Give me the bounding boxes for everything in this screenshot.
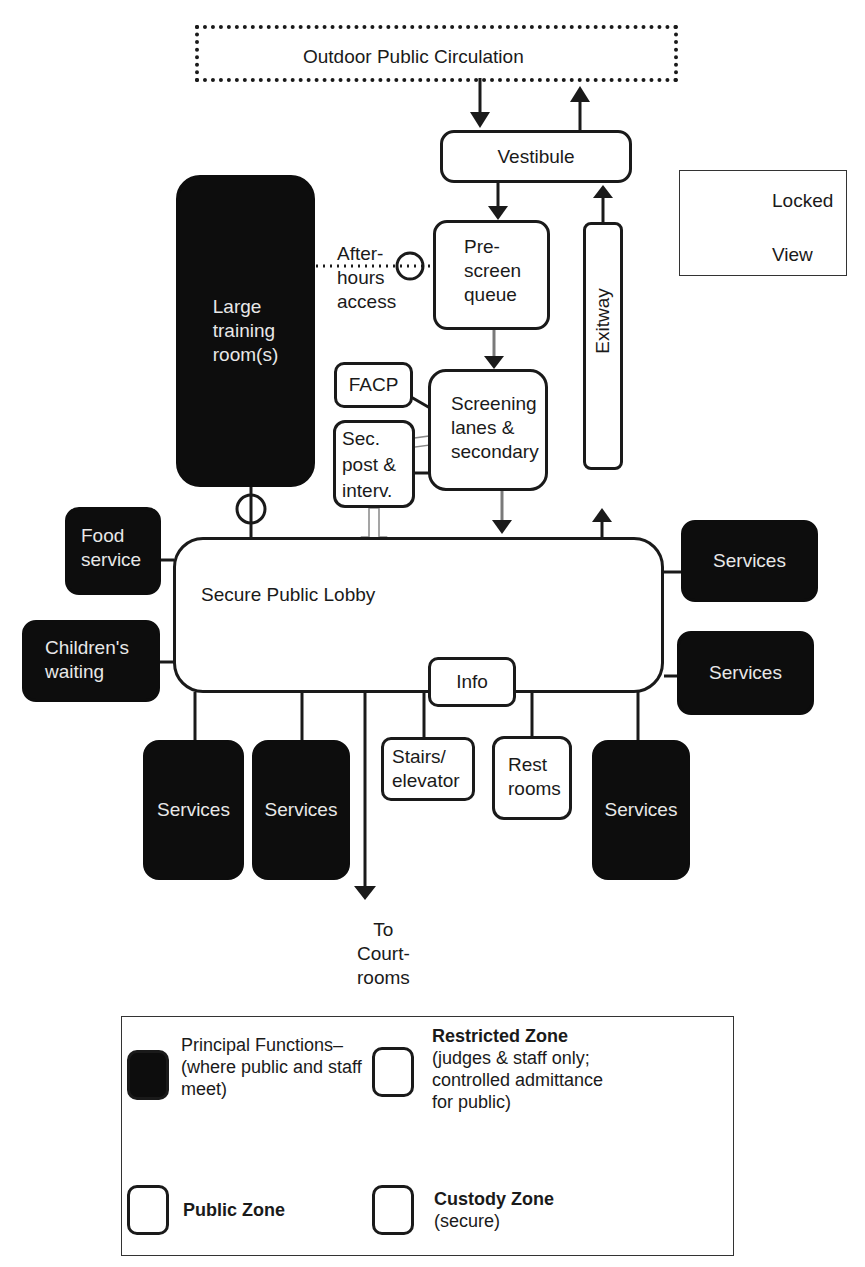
- services-right-top-label: Services: [713, 549, 786, 573]
- principal-functions-text: Principal Functions– (where public and s…: [181, 1034, 362, 1100]
- services-bottom-3-box: Services: [592, 740, 690, 880]
- services-bottom-2-label: Services: [265, 798, 338, 822]
- restricted-zone-swatch: [372, 1047, 414, 1097]
- services-right-top-box: Services: [681, 520, 818, 602]
- services-bottom-3-label: Services: [605, 798, 678, 822]
- prescreen-queue-box: Pre- screen queue: [433, 220, 550, 330]
- security-post-box: Sec. post & interv.: [333, 420, 415, 508]
- stairs-elevator-box: Stairs/ elevator: [381, 737, 475, 801]
- screening-label: Screening lanes & secondary: [451, 392, 539, 464]
- stairs-label: Stairs/ elevator: [392, 745, 460, 793]
- public-zone-swatch: [127, 1185, 169, 1235]
- facp-box: FACP: [334, 362, 413, 408]
- food-service-box: Food service: [65, 507, 161, 595]
- restricted-desc: (judges & staff only; controlled admitta…: [432, 1047, 603, 1113]
- after-hours-access-label: After- hours access: [337, 242, 396, 314]
- services-right-mid-box: Services: [677, 631, 814, 715]
- custody-zone-swatch: [372, 1185, 414, 1235]
- facp-label: FACP: [349, 373, 399, 397]
- principal-title: Principal Functions–: [181, 1034, 362, 1056]
- services-right-mid-label: Services: [709, 661, 782, 685]
- legend-locked-label: Locked: [772, 189, 833, 213]
- info-box: Info: [428, 657, 516, 707]
- restricted-zone-text: Restricted Zone (judges & staff only; co…: [432, 1025, 603, 1113]
- restrooms-label: Rest rooms: [508, 753, 561, 801]
- legend-view-label: View: [772, 243, 813, 267]
- public-zone-title: Public Zone: [183, 1199, 285, 1221]
- childrens-waiting-box: Children's waiting: [22, 620, 160, 702]
- vestibule-box: Vestibule: [440, 130, 632, 183]
- prescreen-label: Pre- screen queue: [464, 235, 521, 307]
- outdoor-label: Outdoor Public Circulation: [303, 45, 524, 69]
- lobby-label: Secure Public Lobby: [201, 583, 375, 607]
- services-bottom-2-box: Services: [252, 740, 350, 880]
- childrens-waiting-label: Children's waiting: [45, 636, 129, 684]
- custody-title: Custody Zone: [434, 1188, 554, 1210]
- screening-lanes-box: Screening lanes & secondary: [428, 369, 548, 491]
- training-label: Large training room(s): [213, 295, 278, 367]
- food-service-label: Food service: [81, 524, 141, 572]
- principal-desc: (where public and staff meet): [181, 1056, 362, 1100]
- restrooms-box: Rest rooms: [492, 736, 572, 820]
- secure-public-lobby: Secure Public Lobby: [173, 537, 664, 693]
- large-training-room-box: Large training room(s): [176, 175, 315, 487]
- custody-zone-text: Custody Zone (secure): [434, 1188, 554, 1232]
- services-bottom-1-label: Services: [157, 798, 230, 822]
- custody-desc: (secure): [434, 1210, 554, 1232]
- to-courtrooms-label: To Court- rooms: [357, 918, 410, 990]
- security-post-label: Sec. post & interv.: [342, 426, 396, 504]
- symbol-legend: [679, 170, 847, 276]
- exitway-box: Exitway: [583, 222, 623, 470]
- circulation-diagram: Outdoor Public Circulation Vestibule Pre…: [0, 0, 865, 1267]
- exitway-label: Exitway: [591, 288, 615, 353]
- services-bottom-1-box: Services: [143, 740, 244, 880]
- info-label: Info: [456, 670, 488, 694]
- principal-functions-swatch: [127, 1050, 169, 1100]
- vestibule-label: Vestibule: [497, 145, 574, 169]
- restricted-title: Restricted Zone: [432, 1025, 603, 1047]
